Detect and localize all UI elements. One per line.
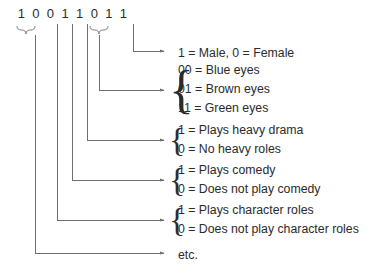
label-line: 0 = No heavy roles [178, 140, 303, 159]
curly-brace-icon: { [169, 203, 185, 237]
curly-brace-icon: { [169, 64, 194, 116]
label-line: etc. [178, 246, 198, 265]
label-line: 1 = Plays comedy [178, 161, 321, 180]
label-line: 0 = Does not play character roles [178, 220, 359, 239]
label-line: 0 = Does not play comedy [178, 180, 321, 199]
label-group-comedy-field: { 1 = Plays comedy 0 = Does not play com… [178, 161, 321, 199]
curly-brace-icon: { [169, 163, 185, 197]
label-group-etc-field: etc. [178, 246, 198, 265]
label-line: 1 = Plays character roles [178, 201, 359, 220]
label-group-character-roles-field: { 1 = Plays character roles 0 = Does not… [178, 201, 359, 239]
curly-brace-icon: { [169, 123, 185, 157]
bit-field-encoding-diagram: 10011011 1 = Male, 0 = [0, 0, 387, 269]
label-group-eye-color-field: { 00 = Blue eyes 01 = Brown eyes 11 = Gr… [178, 61, 270, 118]
label-line: 1 = Plays heavy drama [178, 121, 303, 140]
label-group-heavy-drama-field: { 1 = Plays heavy drama 0 = No heavy rol… [178, 121, 303, 159]
